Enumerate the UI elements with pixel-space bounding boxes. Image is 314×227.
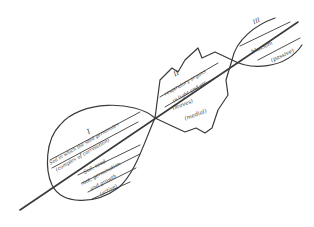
diagram-canvas: I Soil in which the seed germinates (com…: [0, 0, 314, 227]
lobe-3-upper-line-1: blossom: [250, 40, 273, 55]
lobe-1-numeral: I: [85, 128, 92, 137]
lobe-2-lower-line-2: (medial): [184, 108, 208, 122]
lobe-3-numeral: III: [251, 15, 262, 25]
